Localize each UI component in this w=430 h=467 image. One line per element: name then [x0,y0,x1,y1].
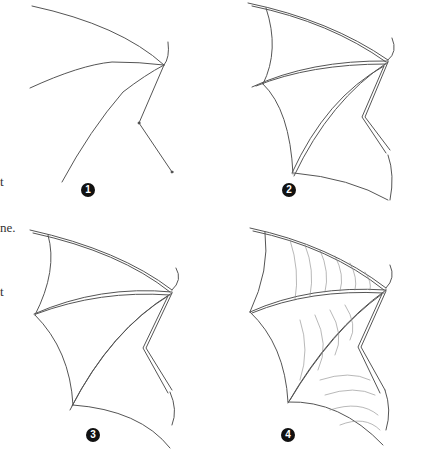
step-badge-2: 2 [282,183,296,197]
step-badge-1: 1 [81,183,95,197]
step-3-drawing [30,230,179,448]
wing-illustrations [0,0,430,467]
step-badge-4: 4 [281,428,295,442]
step-1-drawing [30,6,173,182]
step-badge-3: 3 [86,428,100,442]
step-2-drawing [248,3,394,200]
step-4-drawing [250,228,392,445]
